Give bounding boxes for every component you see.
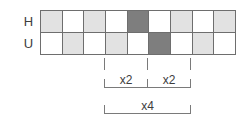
grid-cell-h-8: [193, 11, 215, 32]
diagram-canvas: H U x2 x2: [0, 0, 245, 120]
grid-cell-u-9: [214, 33, 235, 54]
bracket-tick-left: [104, 58, 105, 70]
grid-cell-h-2: [63, 11, 85, 32]
grid-cell-h-4: [106, 11, 128, 32]
grid-cell-u-3: [84, 33, 106, 54]
grid-cell-u-4: [106, 33, 128, 54]
grid-row-u: [41, 33, 235, 54]
grid-cell-h-3: [84, 11, 106, 32]
grid-cell-h-5: [128, 11, 150, 32]
row-label-u: U: [20, 33, 37, 55]
bracket-label-x2-right: x2: [147, 73, 191, 87]
grid-cell-h-9: [214, 11, 235, 32]
bracket-tick-middle: [147, 58, 148, 70]
grid-cell-h-6: [149, 11, 171, 32]
grid-cell-u-1: [41, 33, 63, 54]
row-label-h: H: [20, 11, 37, 33]
grid-row-h: [41, 11, 235, 33]
bracket-label-x2-left: x2: [104, 73, 148, 87]
grid-cell-u-8: [193, 33, 215, 54]
grid-cell-h-7: [171, 11, 193, 32]
cell-grid: [40, 10, 236, 55]
grid-cell-u-2: [63, 33, 85, 54]
bracket-label-x4: x4: [104, 99, 191, 113]
grid-cell-h-1: [41, 11, 63, 32]
grid-cell-u-6: [149, 33, 171, 54]
bracket-tick-right: [190, 58, 191, 70]
grid-cell-u-7: [171, 33, 193, 54]
grid-cell-u-5: [128, 33, 150, 54]
